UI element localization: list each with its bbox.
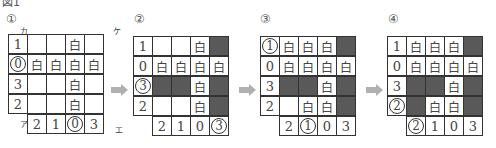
row-hint-cell: 2 xyxy=(133,96,153,116)
grid-row: 0白白白白 xyxy=(8,54,103,74)
step-label-3: ③ xyxy=(260,12,271,26)
column-hint-cell: 3 xyxy=(463,116,483,136)
column-hint-cell: 2 xyxy=(279,116,299,136)
row-hint-cell: 2 xyxy=(260,96,280,116)
empty-cell xyxy=(46,34,66,54)
white-marked-cell: 白 xyxy=(317,56,337,76)
row-hint-cell: 0 xyxy=(133,56,153,76)
shaded-cell xyxy=(152,76,172,96)
spacer xyxy=(8,114,28,134)
column-hint-cell: 1 xyxy=(425,116,445,136)
column-hint-cell: 0 xyxy=(317,116,337,136)
column-hint-cell: 2 xyxy=(152,116,172,136)
puzzle-grid-step-1: 1白0白白白白3白2白2103 xyxy=(8,34,103,134)
column-hint-cell: 3 xyxy=(336,116,356,136)
grid-row: 2白 xyxy=(133,96,228,116)
row-hint-cell: 3 xyxy=(387,76,407,96)
row-hint-cell: 2 xyxy=(8,94,28,114)
column-hint-row: 2103 xyxy=(8,114,103,134)
grid-row: 3白 xyxy=(260,76,355,96)
circled-number: 2 xyxy=(408,118,424,134)
row-hint-cell: 1 xyxy=(8,34,28,54)
grid-row: 0白白白白 xyxy=(133,56,228,76)
circled-number: 0 xyxy=(67,116,83,132)
row-hint-cell: 3 xyxy=(260,76,280,96)
grid-row: 3白 xyxy=(387,76,482,96)
step-label-2: ② xyxy=(134,12,145,26)
empty-cell xyxy=(152,36,172,56)
column-hint-cell: 0 xyxy=(65,114,85,134)
white-marked-cell: 白 xyxy=(444,36,464,56)
white-marked-cell: 白 xyxy=(336,56,356,76)
white-marked-cell: 白 xyxy=(406,56,426,76)
white-marked-cell: 白 xyxy=(298,36,318,56)
white-marked-cell: 白 xyxy=(65,94,85,114)
empty-cell xyxy=(27,94,47,114)
shaded-cell xyxy=(463,36,483,56)
step-label-1: ① xyxy=(6,12,17,26)
empty-cell xyxy=(27,74,47,94)
row-hint-cell: 1 xyxy=(260,36,280,56)
circled-number: 2 xyxy=(389,98,405,114)
white-marked-cell: 白 xyxy=(65,74,85,94)
row-hint-cell: 0 xyxy=(8,54,28,74)
shaded-cell xyxy=(406,76,426,96)
empty-cell xyxy=(171,36,191,56)
shaded-cell xyxy=(209,96,229,116)
shaded-cell xyxy=(463,96,483,116)
puzzle-grid-step-3: 1白白白0白白白白3白2白白2103 xyxy=(260,36,355,136)
grid-row: 0白白白白 xyxy=(260,56,355,76)
right-arrow-icon xyxy=(366,84,384,96)
column-hint-cell: 0 xyxy=(444,116,464,136)
shaded-cell xyxy=(209,36,229,56)
empty-cell xyxy=(46,74,66,94)
white-marked-cell: 白 xyxy=(425,56,445,76)
empty-cell xyxy=(46,94,66,114)
row-hint-cell: 2 xyxy=(387,96,407,116)
grid-row: 1白 xyxy=(8,34,103,54)
white-marked-cell: 白 xyxy=(65,54,85,74)
column-hint-cell: 1 xyxy=(46,114,66,134)
shaded-cell xyxy=(336,76,356,96)
white-marked-cell: 白 xyxy=(279,56,299,76)
shaded-cell xyxy=(406,96,426,116)
grid-row: 3白 xyxy=(133,76,228,96)
white-marked-cell: 白 xyxy=(171,56,191,76)
circled-number: 1 xyxy=(300,118,316,134)
white-marked-cell: 白 xyxy=(317,36,337,56)
row-hint-cell: 1 xyxy=(387,36,407,56)
empty-cell xyxy=(279,96,299,116)
white-marked-cell: 白 xyxy=(425,36,445,56)
white-marked-cell: 白 xyxy=(279,36,299,56)
white-marked-cell: 白 xyxy=(65,34,85,54)
figure-title: 図1 xyxy=(2,0,20,9)
grid-row: 2白 xyxy=(8,94,103,114)
white-marked-cell: 白 xyxy=(298,56,318,76)
white-marked-cell: 白 xyxy=(190,96,210,116)
column-hint-cell: 0 xyxy=(190,116,210,136)
column-hint-cell: 1 xyxy=(298,116,318,136)
puzzle-grid-step-4: 1白白白0白白白白3白2白白2103 xyxy=(387,36,482,136)
empty-cell xyxy=(171,96,191,116)
grid-row: 2白白 xyxy=(260,96,355,116)
right-arrow-icon xyxy=(239,84,257,96)
shaded-cell xyxy=(171,76,191,96)
row-hint-cell: 0 xyxy=(387,56,407,76)
row-hint-cell: 3 xyxy=(8,74,28,94)
white-marked-cell: 白 xyxy=(190,76,210,96)
column-hint-row: 2103 xyxy=(387,116,482,136)
white-marked-cell: 白 xyxy=(190,36,210,56)
grid-row: 0白白白白 xyxy=(387,56,482,76)
white-marked-cell: 白 xyxy=(425,96,445,116)
spacer xyxy=(387,116,407,136)
circled-number: 0 xyxy=(10,56,26,72)
white-marked-cell: 白 xyxy=(317,76,337,96)
column-hint-cell: 2 xyxy=(27,114,47,134)
white-marked-cell: 白 xyxy=(317,96,337,116)
grid-row: 1白 xyxy=(133,36,228,56)
shaded-cell xyxy=(279,76,299,96)
circled-number: 1 xyxy=(262,38,278,54)
grid-row: 1白白白 xyxy=(387,36,482,56)
column-hint-cell: 3 xyxy=(84,114,104,134)
white-marked-cell: 白 xyxy=(209,56,229,76)
